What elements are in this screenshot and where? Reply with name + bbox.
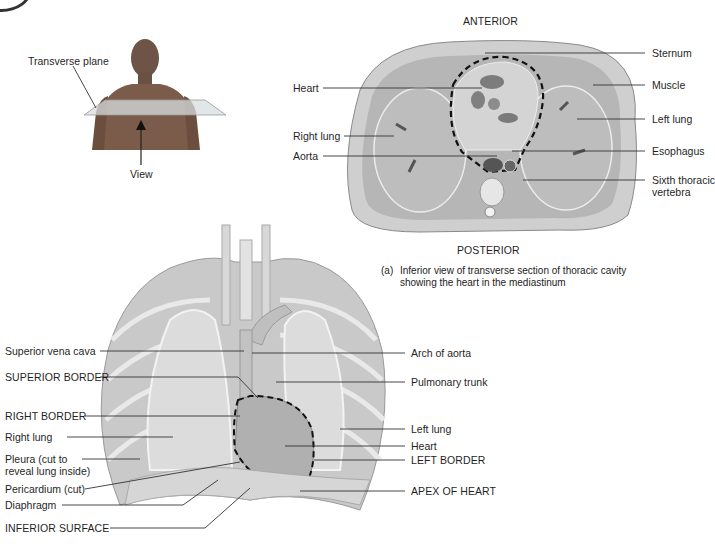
label-sternum: Sternum [652,47,692,59]
label-left-lung-a: Left lung [652,113,692,125]
label-right-lung-a: Right lung [293,130,340,142]
anterior-label: ANTERIOR [463,15,518,27]
label-pulmonary-trunk: Pulmonary trunk [411,376,487,388]
label-pleura-line2: reveal lung inside) [5,465,90,477]
label-superior-border: SUPERIOR BORDER [5,371,109,383]
label-right-border: RIGHT BORDER [5,410,87,422]
label-pericardium: Pericardium (cut) [5,483,85,495]
label-muscle: Muscle [652,79,685,91]
caption-a-marker: (a) [381,265,393,277]
view-label: View [130,168,153,180]
label-diaphragm: Diaphragm [5,499,56,511]
label-esophagus: Esophagus [652,145,705,157]
label-pleura-line1: Pleura (cut to [5,453,67,465]
transverse-plane-label: Transverse plane [28,55,109,67]
label-sixth-thoracic: Sixth thoracic [652,174,715,186]
caption-a-line1: Inferior view of transverse section of t… [400,265,626,277]
label-left-border: LEFT BORDER [411,454,485,466]
label-superior-vena-cava: Superior vena cava [5,345,95,357]
label-vertebra: vertebra [652,186,691,198]
label-heart-b: Heart [411,440,437,452]
label-inferior-surface: INFERIOR SURFACE [5,522,109,534]
posterior-label: POSTERIOR [457,244,520,256]
label-right-lung-b: Right lung [5,431,52,443]
caption-a-line2: showing the heart in the mediastinum [400,277,566,289]
label-arch-of-aorta: Arch of aorta [411,347,471,359]
label-apex-of-heart: APEX OF HEART [411,485,496,497]
thorax-anterior-illustration [101,225,385,510]
label-heart-a: Heart [293,82,319,94]
label-aorta-a: Aorta [293,150,318,162]
label-left-lung-b: Left lung [411,423,451,435]
